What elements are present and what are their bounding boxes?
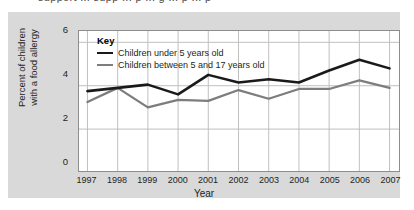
cut-off-text: support ... supp ... p ... g ... p ... p [38, 0, 211, 3]
x-tick-2006: 2006 [345, 175, 375, 185]
x-tick-2003: 2003 [254, 175, 284, 185]
x-tick-1998: 1998 [102, 175, 132, 185]
x-tick-2004: 2004 [284, 175, 314, 185]
x-axis-tick-labels: 1997 1998 1999 2000 2001 2002 2003 2004 … [8, 12, 400, 198]
figure-panel: Percent of children with a food allergy … [8, 12, 400, 198]
page-top-text-fragment: support ... supp ... p ... g ... p ... p [0, 0, 414, 11]
chart-screenshot: support ... supp ... p ... g ... p ... p… [0, 0, 414, 210]
x-axis-title: Year [8, 188, 400, 199]
x-tick-2005: 2005 [315, 175, 345, 185]
x-tick-2002: 2002 [224, 175, 254, 185]
x-tick-2001: 2001 [193, 175, 223, 185]
x-tick-2000: 2000 [163, 175, 193, 185]
x-tick-2007: 2007 [376, 175, 406, 185]
x-tick-1999: 1999 [132, 175, 162, 185]
x-tick-1997: 1997 [72, 175, 102, 185]
